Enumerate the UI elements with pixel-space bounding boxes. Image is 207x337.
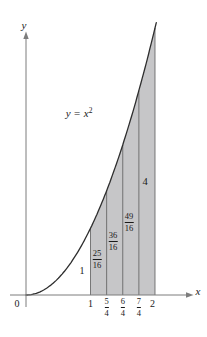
denominator: 4 [121, 309, 125, 318]
equation-exponent: 2 [89, 106, 93, 115]
numerator: 7 [137, 297, 141, 306]
x-tick-5-4: 5 4 [104, 297, 108, 317]
figure: y x y=x2 0 1 5 4 6 4 7 4 2 1 25 16 36 16… [0, 0, 207, 337]
x-tick-7-4: 7 4 [137, 297, 141, 317]
ordinate-label-4: 4 [142, 177, 147, 188]
equation-lhs: y [66, 107, 71, 119]
numerator: 6 [121, 297, 125, 306]
ordinate-label-36-16: 36 16 [109, 231, 118, 251]
y-axis-label: y [22, 20, 27, 31]
numerator: 25 [93, 249, 102, 258]
x-axis-label: x [196, 286, 201, 297]
denominator: 16 [125, 224, 134, 233]
equation-equals: = [74, 107, 80, 119]
denominator: 4 [137, 309, 141, 318]
figure-svg [0, 0, 207, 337]
x-tick-6-4: 6 4 [121, 297, 125, 317]
denominator: 4 [104, 309, 108, 318]
origin-label: 0 [15, 299, 20, 309]
denominator: 16 [93, 261, 102, 270]
ordinate-label-1: 1 [80, 266, 85, 276]
x-axis-arrowhead-icon [186, 292, 194, 297]
denominator: 16 [109, 243, 118, 252]
numerator: 49 [125, 212, 134, 221]
numerator: 36 [109, 231, 118, 240]
numerator: 5 [104, 297, 108, 306]
x-tick-2: 2 [150, 299, 155, 309]
ordinate-label-49-16: 49 16 [125, 212, 134, 232]
equation-label: y=x2 [66, 107, 93, 119]
x-tick-1: 1 [88, 299, 93, 309]
y-axis-arrowhead-icon [23, 32, 28, 40]
ordinate-label-25-16: 25 16 [93, 249, 102, 269]
